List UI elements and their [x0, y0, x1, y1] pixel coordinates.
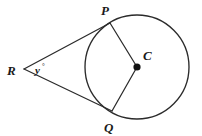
center-point-dot [133, 63, 140, 70]
degree-symbol-icon: ° [42, 62, 45, 70]
label-point-c: C [143, 48, 152, 63]
geometry-figure: P Q C R y ° [0, 0, 202, 136]
geometry-canvas: P Q C R y ° [0, 0, 202, 136]
segment-cp [110, 23, 137, 67]
segment-cq [112, 67, 137, 111]
label-angle-r: y ° [33, 62, 45, 76]
angle-variable-y: y [33, 64, 40, 76]
label-point-p: P [101, 3, 110, 18]
label-point-q: Q [104, 120, 114, 135]
segment-rp [24, 23, 110, 69]
label-point-r: R [6, 63, 16, 78]
